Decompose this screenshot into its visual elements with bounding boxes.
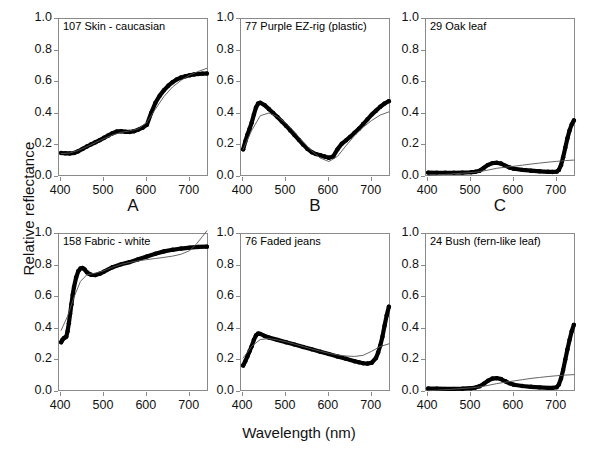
data-point	[179, 246, 183, 250]
y-tick-mark	[54, 176, 58, 177]
y-tick-label: 0.6	[202, 73, 234, 87]
data-point	[158, 93, 162, 97]
panel-letter-c: C	[425, 196, 575, 216]
y-tick-mark	[236, 296, 240, 297]
data-point	[559, 163, 563, 167]
data-point	[175, 77, 179, 81]
data-point	[262, 103, 266, 107]
panel-title: 29 Oak leaf	[430, 20, 486, 32]
y-tick-mark	[421, 144, 425, 145]
data-point	[243, 359, 247, 363]
data-point	[561, 368, 565, 372]
x-tick-label: 700	[349, 183, 393, 197]
data-point	[252, 338, 256, 342]
x-tick-label: 400	[38, 398, 82, 412]
y-tick-label: 1.0	[202, 225, 234, 239]
data-point	[170, 80, 174, 84]
data-point	[74, 275, 78, 279]
data-point	[365, 361, 369, 365]
y-tick-mark	[236, 144, 240, 145]
y-tick-label: 0.4	[387, 105, 419, 119]
data-point	[254, 105, 258, 109]
y-tick-mark	[421, 391, 425, 392]
data-point	[529, 385, 533, 389]
data-point	[537, 169, 541, 173]
y-tick-label: 0.4	[202, 105, 234, 119]
data-point	[378, 104, 382, 108]
y-tick-label: 1.0	[20, 225, 52, 239]
data-point	[482, 166, 486, 170]
y-tick-label: 0.2	[20, 351, 52, 365]
x-tick-mark	[371, 177, 372, 181]
panel-title: 77 Purple EZ-rig (plastic)	[245, 20, 367, 32]
x-tick-label: 500	[81, 183, 125, 197]
data-point	[340, 142, 344, 146]
y-tick-mark	[236, 50, 240, 51]
y-tick-label: 0.8	[20, 257, 52, 271]
data-point	[537, 385, 541, 389]
data-point	[426, 170, 430, 174]
x-tick-mark	[189, 392, 190, 396]
x-tick-label: 600	[124, 183, 168, 197]
data-point	[563, 357, 567, 361]
x-tick-label: 400	[405, 398, 449, 412]
x-tick-mark	[103, 392, 104, 396]
curves-f	[426, 234, 576, 392]
y-tick-label: 0.6	[387, 288, 419, 302]
y-tick-mark	[421, 113, 425, 114]
x-tick-label: 600	[491, 398, 535, 412]
x-tick-mark	[189, 177, 190, 181]
x-tick-label: 600	[124, 398, 168, 412]
x-tick-mark	[427, 177, 428, 181]
data-point	[512, 383, 516, 387]
data-point	[335, 147, 339, 151]
y-tick-label: 1.0	[20, 10, 52, 24]
y-tick-mark	[236, 113, 240, 114]
y-tick-label: 1.0	[387, 10, 419, 24]
data-point	[570, 329, 574, 333]
plot-area-b: 77 Purple EZ-rig (plastic)	[240, 18, 390, 176]
x-tick-mark	[146, 392, 147, 396]
x-tick-mark	[470, 177, 471, 181]
panel-title: 76 Faded jeans	[245, 235, 321, 247]
y-tick-mark	[236, 233, 240, 234]
data-point	[327, 156, 331, 160]
y-tick-label: 0.8	[387, 257, 419, 271]
plot-area-e: 76 Faded jeans	[240, 233, 390, 391]
data-point	[482, 382, 486, 386]
x-tick-mark	[513, 392, 514, 396]
data-point	[520, 168, 524, 172]
data-point	[65, 329, 69, 333]
data-point	[370, 112, 374, 116]
panel-letter-a: A	[58, 196, 208, 216]
curves-c	[426, 19, 576, 177]
y-tick-label: 0.0	[387, 168, 419, 182]
y-tick-label: 0.2	[387, 136, 419, 150]
x-tick-mark	[242, 177, 243, 181]
data-point	[284, 123, 288, 127]
data-point	[499, 161, 503, 165]
data-point	[374, 108, 378, 112]
panel-letter-b: B	[240, 196, 390, 216]
y-tick-label: 0.6	[202, 288, 234, 302]
data-point	[258, 101, 262, 105]
plot-area-f: 24 Bush (fern-like leaf)	[425, 233, 575, 391]
x-tick-mark	[427, 392, 428, 396]
data-point	[262, 334, 266, 338]
y-tick-label: 0.4	[20, 320, 52, 334]
y-tick-mark	[421, 296, 425, 297]
data-point	[490, 376, 494, 380]
y-tick-label: 0.0	[20, 383, 52, 397]
data-point	[89, 273, 93, 277]
x-tick-mark	[556, 392, 557, 396]
data-point	[520, 384, 524, 388]
y-tick-mark	[421, 265, 425, 266]
y-tick-mark	[54, 81, 58, 82]
data-point	[241, 363, 245, 367]
data-point	[570, 122, 574, 126]
data-point	[365, 117, 369, 121]
data-point	[72, 285, 76, 289]
y-tick-mark	[236, 18, 240, 19]
data-point	[572, 323, 576, 327]
y-tick-mark	[54, 391, 58, 392]
